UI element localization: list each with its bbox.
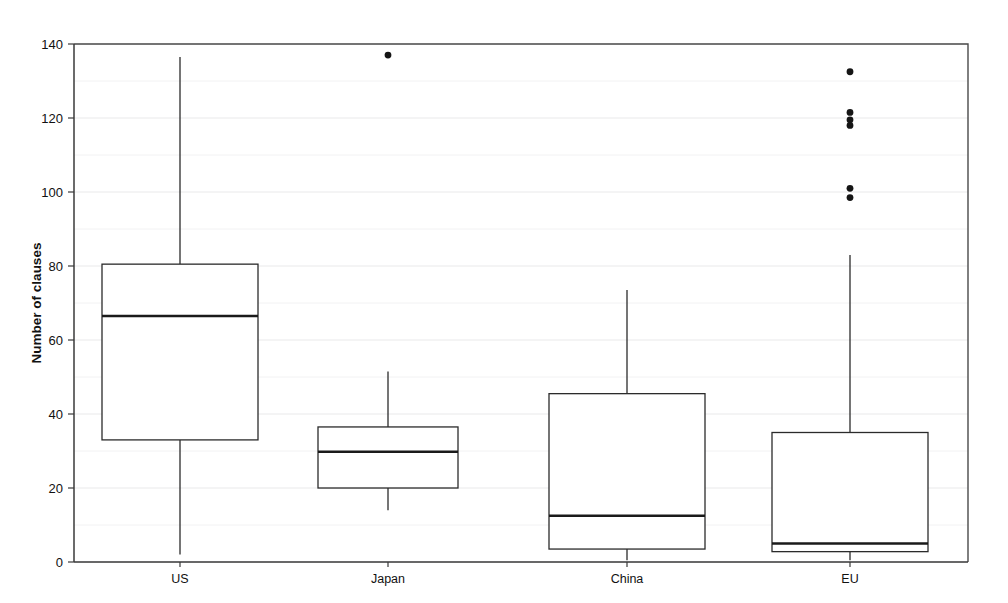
y-tick-label: 20 — [49, 481, 63, 496]
category-label-us: US — [171, 572, 188, 586]
y-axis-title-group: Number of clauses — [29, 243, 44, 364]
category-label-china: China — [611, 572, 644, 586]
outlier-point — [847, 122, 854, 129]
y-tick-label: 140 — [41, 37, 63, 52]
y-tick-label: 40 — [49, 407, 63, 422]
outlier-point — [847, 109, 854, 116]
box-iqr — [772, 433, 928, 552]
outlier-point — [847, 68, 854, 75]
y-axis-title: Number of clauses — [29, 243, 44, 364]
outlier-point — [385, 52, 392, 59]
y-tick-label: 60 — [49, 333, 63, 348]
y-tick-label: 120 — [41, 111, 63, 126]
chart-page: 020406080100120140 USJapanChinaEU Number… — [0, 0, 1008, 603]
boxplot-chart: 020406080100120140 USJapanChinaEU Number… — [0, 0, 1008, 603]
box-iqr — [102, 264, 258, 440]
category-label-eu: EU — [841, 572, 858, 586]
y-tick-label: 0 — [56, 555, 63, 570]
outlier-point — [847, 185, 854, 192]
box-iqr — [549, 394, 705, 549]
y-tick-label: 80 — [49, 259, 63, 274]
y-tick-label: 100 — [41, 185, 63, 200]
box-iqr — [318, 427, 458, 488]
outlier-point — [847, 194, 854, 201]
category-label-japan: Japan — [371, 572, 405, 586]
